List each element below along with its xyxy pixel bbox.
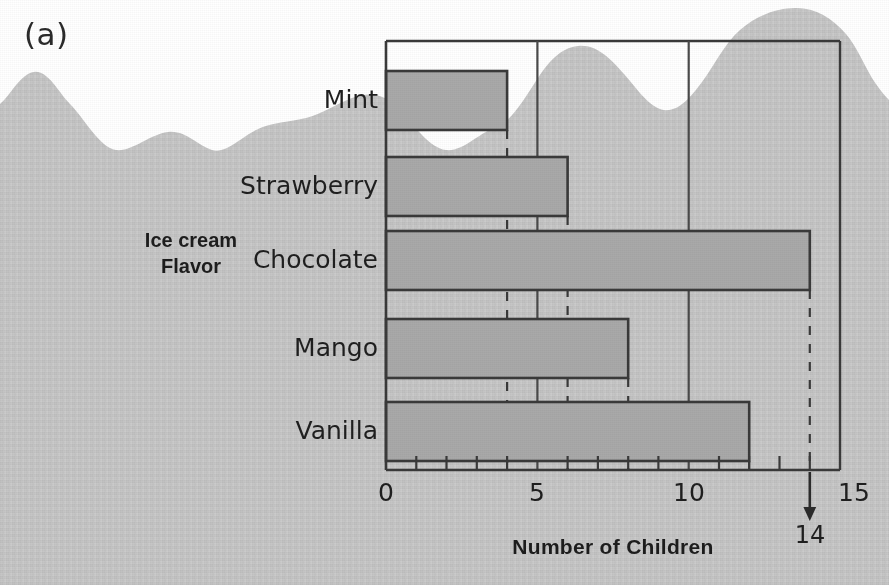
x-tick-label-0: 0 (356, 478, 416, 507)
x-axis-title: Number of Children (386, 535, 840, 559)
category-label-chocolate: Chocolate (38, 245, 378, 274)
bar-mint (386, 71, 507, 130)
category-label-mango: Mango (38, 333, 378, 362)
category-label-mint: Mint (38, 85, 378, 114)
bar-chocolate (386, 231, 810, 290)
category-label-group: Mint Strawberry Chocolate Mango Vanilla (40, 0, 378, 585)
bar-mango (386, 319, 628, 378)
x-tick-label-15: 15 (824, 478, 884, 507)
figure-page: (a) Ice cream Flavor Mint Strawberry Cho… (0, 0, 889, 585)
category-label-vanilla: Vanilla (38, 416, 378, 445)
category-label-strawberry: Strawberry (38, 171, 378, 200)
x-tick-label-5: 5 (507, 478, 567, 507)
callout-arrow-icon (803, 472, 816, 521)
x-tick-label-10: 10 (659, 478, 719, 507)
bar-strawberry (386, 157, 568, 216)
bar-vanilla (386, 402, 749, 461)
